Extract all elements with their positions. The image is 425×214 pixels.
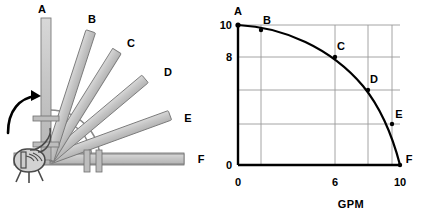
lever-A[interactable] — [41, 18, 51, 160]
valve-diagram-svg: A B C D E F — [0, 0, 213, 214]
lever-label-E: E — [184, 112, 191, 124]
valve-diagram-panel: A B C D E F — [0, 0, 213, 214]
lever-label-D: D — [164, 66, 172, 78]
chart-axes — [238, 25, 400, 165]
ytick-label-0: 0 — [226, 159, 232, 171]
point-label-A: A — [234, 5, 242, 17]
rotation-arrow — [8, 90, 41, 133]
xtick-label-6: 6 — [332, 176, 338, 188]
lever-label-B: B — [88, 13, 96, 25]
data-point-E — [390, 122, 394, 126]
ytick-label-10: 10 — [220, 19, 232, 31]
lever-label-C: C — [127, 37, 135, 49]
point-label-E: E — [395, 108, 402, 120]
data-point-D — [366, 88, 370, 92]
gridlines-vertical — [261, 25, 392, 165]
data-points — [235, 22, 402, 167]
xtick-label-0: 0 — [235, 176, 241, 188]
point-label-D: D — [370, 73, 378, 85]
point-label-F: F — [406, 153, 413, 165]
ytick-label-8: 8 — [226, 51, 232, 63]
xtick-label-10: 10 — [394, 176, 406, 188]
point-label-B: B — [263, 14, 271, 26]
flow-curve-chart-svg: A B C D E F 10 8 0 0 6 10 GPM — [213, 0, 425, 214]
data-point-B — [259, 28, 263, 32]
point-label-C: C — [337, 40, 345, 52]
data-point-C — [333, 55, 337, 59]
flow-curve — [238, 25, 400, 165]
lever-label-F: F — [198, 153, 205, 165]
data-point-F — [398, 163, 402, 167]
data-point-A — [235, 22, 240, 27]
xaxis-title: GPM — [338, 198, 365, 210]
lever-label-A: A — [38, 3, 46, 15]
flow-curve-chart-panel: A B C D E F 10 8 0 0 6 10 GPM — [213, 0, 425, 214]
figure-root: A B C D E F — [0, 0, 425, 214]
